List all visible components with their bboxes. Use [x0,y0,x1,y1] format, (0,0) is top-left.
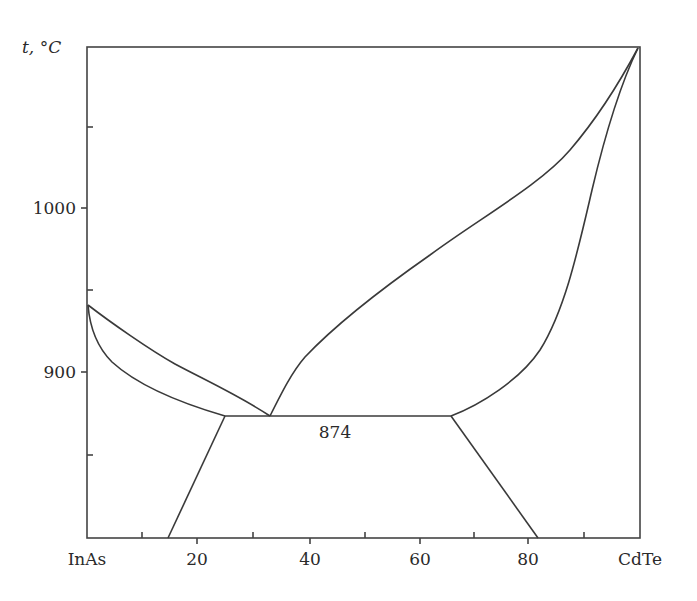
y-axis-title: t, °C [22,37,61,57]
solidus-right-curve [451,48,638,416]
x-label-cdte: CdTe [618,549,662,569]
phase-diagram: t, °C 1000 900 InAs 20 40 60 80 CdTe 874 [0,0,697,601]
eutectic-label: 874 [319,422,351,442]
solvus-right-line [451,416,538,538]
x-label-inas: InAs [68,549,107,569]
solvus-left-line [168,416,225,538]
liquidus-left-curve [88,305,270,416]
y-tick-label-900: 900 [44,362,76,382]
x-tick-label-60: 60 [409,549,431,569]
x-tick-label-40: 40 [299,549,321,569]
plot-frame [87,47,640,538]
solidus-left-curve [88,305,225,416]
x-tick-label-80: 80 [517,549,539,569]
y-tick-label-1000: 1000 [33,198,76,218]
x-tick-label-20: 20 [186,549,208,569]
